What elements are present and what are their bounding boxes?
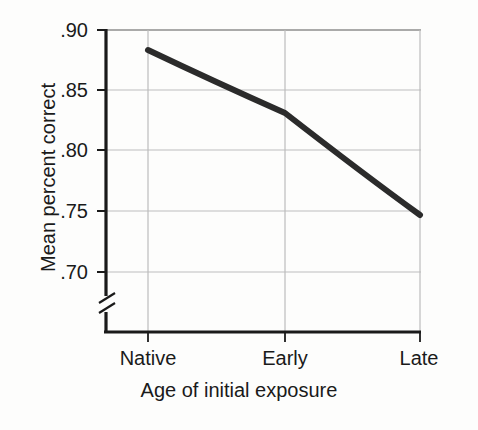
x-axis-title: Age of initial exposure [0,378,478,402]
x-tick-label-late: Late [400,348,439,368]
y-axis-title: Mean percent correct [38,83,58,272]
gridlines-horizontal [106,30,421,272]
data-series-line [148,50,420,215]
gridlines-vertical [148,30,420,332]
x-tick-label-early: Early [262,348,308,368]
chart-figure: .90 .85 .80 .75 .70 Native Early Late Ag… [0,0,478,430]
x-tick-label-native: Native [120,348,177,368]
y-tick-label-0: .90 [30,20,88,40]
